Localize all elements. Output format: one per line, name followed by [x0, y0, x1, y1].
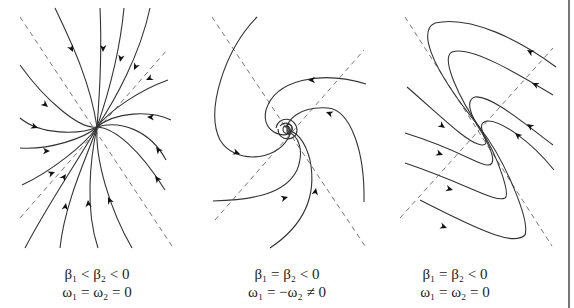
caption-stable-focus: β₁ = β₂ < 0 ω₁ = −ω₂ ≠ 0	[207, 265, 367, 301]
caption-omega-condition: ω₁ = −ω₂ ≠ 0	[207, 283, 367, 301]
caption-beta-condition: β₁ < β₂ < 0	[17, 265, 177, 283]
panel-stable-focus	[212, 17, 366, 248]
eigen-axis-2	[400, 48, 553, 218]
eigen-axis-1	[212, 17, 365, 246]
trajectories	[20, 8, 171, 248]
caption-degenerate-node: β₁ = β₂ < 0 ω₁ = ω₂ = 0	[375, 265, 535, 301]
trajectories	[405, 21, 556, 238]
page-edge-divider	[568, 0, 570, 308]
caption-beta-condition: β₁ = β₂ < 0	[375, 265, 535, 283]
phase-portraits-figure	[0, 0, 574, 308]
panel-stable-node	[20, 8, 172, 248]
panel-degenerate-node	[400, 17, 556, 246]
caption-omega-condition: ω₁ = ω₂ = 0	[375, 283, 535, 301]
caption-stable-node: β₁ < β₂ < 0 ω₁ = ω₂ = 0	[17, 265, 177, 301]
caption-omega-condition: ω₁ = ω₂ = 0	[17, 283, 177, 301]
caption-beta-condition: β₁ = β₂ < 0	[207, 265, 367, 283]
